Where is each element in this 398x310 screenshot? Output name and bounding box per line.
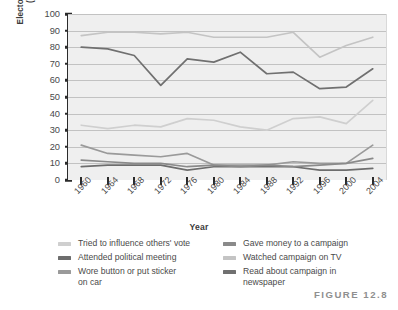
y-tick-label-80: 80 [34,42,60,52]
legend-item[interactable]: Tried to influence others' vote [58,238,223,249]
y-tick-label-100: 100 [34,9,60,19]
legend-swatch-gave-money [223,242,236,246]
y-tick-label-60: 60 [34,75,60,85]
figure-12-8: Electoral Participation (in percent) 010… [0,0,398,310]
legend-swatch-wore-button [58,270,71,274]
y-tick-label-40: 40 [34,109,60,119]
figure-caption: FIGURE 12.8 [314,289,388,300]
legend-item[interactable]: Read about campaign innewspaper [223,266,388,288]
legend-item[interactable]: Attended political meeting [58,252,223,263]
x-axis-title: Year [0,222,398,232]
y-tick-label-50: 50 [34,92,60,102]
y-tick-label-10: 10 [34,158,60,168]
y-axis-title-line-1: Electoral Participation [16,0,26,40]
y-tick-label-70: 70 [34,59,60,69]
legend-column-right: Gave money to a campaignWatched campaign… [223,238,388,292]
legend-column-left: Tried to influence others' voteAttended … [58,238,223,292]
legend-item[interactable]: Wore button or put stickeron car [58,266,223,288]
y-tick-label-90: 90 [34,26,60,36]
y-axis-title: Electoral Participation (in percent) [16,0,36,40]
legend-item-label: Attended political meeting [78,252,176,263]
series-line-tried-to-influence-others-vote [81,100,373,130]
legend-item-label-continuation: newspaper [243,277,336,288]
y-tick-label-0: 0 [34,175,60,185]
legend-swatch-watched-tv [223,256,236,260]
y-tick-label-30: 30 [34,125,60,135]
legend-item-label: Tried to influence others' vote [78,238,190,249]
legend-item-label: Gave money to a campaign [243,238,348,249]
y-tick-label-20: 20 [34,142,60,152]
plot-area [68,14,386,180]
legend-swatch-tried-to-influence [58,242,71,246]
chart-legend: Tried to influence others' voteAttended … [58,238,388,292]
legend-item[interactable]: Gave money to a campaign [223,238,388,249]
legend-item-label: Read about campaign innewspaper [243,266,336,288]
legend-item-label: Wore button or put stickeron car [78,266,176,288]
legend-swatch-read-newspaper [223,270,236,274]
legend-item[interactable]: Watched campaign on TV [223,252,388,263]
legend-item-label-continuation: on car [78,277,176,288]
legend-swatch-attended-meeting [58,256,71,260]
series-lines [68,14,386,180]
legend-item-label: Watched campaign on TV [243,252,341,263]
